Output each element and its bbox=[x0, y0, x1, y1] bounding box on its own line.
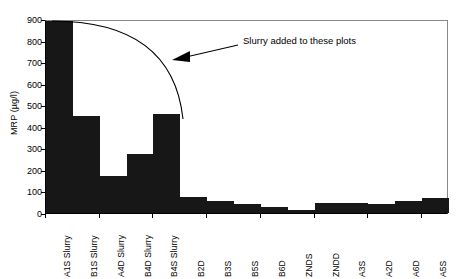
x-axis-tick-label: B5S bbox=[250, 261, 260, 277]
bar bbox=[127, 154, 154, 213]
y-axis-tick-label: 100 bbox=[10, 188, 42, 197]
bar bbox=[261, 207, 288, 213]
bar bbox=[100, 176, 127, 213]
y-axis-tick-label: 0 bbox=[10, 210, 42, 219]
bar bbox=[234, 204, 261, 213]
bar bbox=[315, 203, 342, 213]
y-axis-tick-label: 800 bbox=[10, 38, 42, 47]
bar bbox=[46, 21, 73, 213]
x-axis-tick-mark bbox=[152, 214, 153, 218]
x-axis-tick-label: A4D Slurry bbox=[116, 235, 126, 277]
bar-chart: MRP (µg/l) 0100200300400500600700800900 … bbox=[0, 0, 471, 279]
bar bbox=[207, 201, 234, 213]
plot-area bbox=[45, 20, 448, 214]
x-axis-tick-label: A5S bbox=[438, 261, 448, 277]
x-axis-tick-label: B2D bbox=[196, 260, 206, 277]
x-axis-tick-label: ZNDS bbox=[304, 253, 314, 277]
x-axis-tick-mark bbox=[421, 214, 422, 218]
x-axis-tick-mark bbox=[99, 214, 100, 218]
bar bbox=[342, 203, 369, 213]
x-axis-tick-mark bbox=[314, 214, 315, 218]
x-axis-tick-label: A3S bbox=[357, 261, 367, 277]
y-axis-tick-label: 700 bbox=[10, 59, 42, 68]
bar bbox=[180, 197, 207, 213]
bar bbox=[368, 204, 395, 213]
bar bbox=[153, 114, 180, 213]
x-axis-tick-label: B3S bbox=[223, 261, 233, 277]
bar bbox=[395, 201, 422, 214]
y-axis-tick-label: 400 bbox=[10, 124, 42, 133]
y-axis-tick-label: 200 bbox=[10, 167, 42, 176]
x-axis-tick-mark bbox=[367, 214, 368, 218]
bar bbox=[288, 210, 315, 213]
x-axis-tick-label: B4D Slurry bbox=[143, 235, 153, 277]
x-axis-tick-label: A2D bbox=[384, 260, 394, 277]
x-axis-tick-mark bbox=[206, 214, 207, 218]
bar bbox=[422, 198, 449, 213]
y-axis-tick-label: 900 bbox=[10, 16, 42, 25]
annotation-label: Slurry added to these plots bbox=[243, 35, 356, 46]
bar bbox=[73, 116, 100, 213]
y-axis-tick-label: 600 bbox=[10, 81, 42, 90]
x-axis-tick-mark bbox=[45, 214, 46, 218]
x-axis-tick-label: A6D bbox=[411, 260, 421, 277]
x-axis-tick-label: B4S Slurry bbox=[169, 235, 179, 277]
x-axis-tick-label: ZNDD bbox=[331, 253, 341, 277]
x-axis-tick-mark bbox=[260, 214, 261, 218]
x-axis-tick-label: A1S Slurry bbox=[62, 235, 72, 277]
y-axis-tick-label: 300 bbox=[10, 145, 42, 154]
y-axis-tick-label: 500 bbox=[10, 102, 42, 111]
x-axis-tick-label: B1S Slurry bbox=[89, 235, 99, 277]
x-axis-tick-label: B6D bbox=[277, 260, 287, 277]
